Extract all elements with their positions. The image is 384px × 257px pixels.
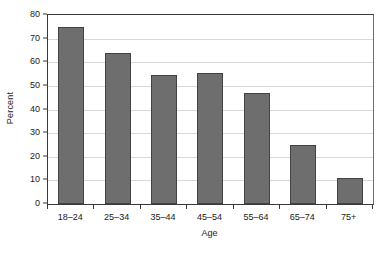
y-axis-title-text: Percent (5, 91, 15, 123)
y-axis-tick-label: 60 (30, 57, 40, 66)
y-axis-tick-labels: 01020304050607080 (18, 14, 40, 203)
bar (197, 73, 223, 204)
x-axis-tick-mark (93, 204, 94, 209)
bar (58, 27, 84, 204)
y-axis-tick-label: 40 (30, 104, 40, 113)
bar (244, 93, 270, 204)
x-axis-tick-marks (47, 204, 374, 209)
x-axis-tick-mark (326, 204, 327, 209)
bar-slot (234, 15, 280, 204)
bar-slot (187, 15, 233, 204)
bar-slot (48, 15, 94, 204)
x-axis-tick-labels: 18–2425–3435–4445–5455–6465–7475+ (47, 210, 372, 224)
y-axis-tick-label: 0 (35, 199, 40, 208)
bar (290, 145, 316, 204)
bar-slot (327, 15, 373, 204)
y-axis-tick-label: 10 (30, 175, 40, 184)
bar (151, 75, 177, 204)
bar (337, 178, 363, 204)
bars-layer (48, 15, 373, 204)
x-axis-tick-label: 65–74 (279, 210, 325, 224)
x-axis-tick-mark (372, 204, 373, 209)
y-axis-title: Percent (0, 0, 20, 215)
y-axis-tick-label: 50 (30, 80, 40, 89)
x-axis-tick-mark (186, 204, 187, 209)
x-axis-tick-label: 35–44 (140, 210, 186, 224)
x-axis-tick-mark (279, 204, 280, 209)
bar-chart-figure: Percent 01020304050607080 18–2425–3435–4… (0, 0, 384, 257)
x-axis-tick-label: 45–54 (186, 210, 232, 224)
y-axis-tick-label: 70 (30, 33, 40, 42)
x-axis-tick-mark (47, 204, 48, 209)
x-axis-tick-label: 55–64 (233, 210, 279, 224)
bar (105, 53, 131, 204)
bar-slot (94, 15, 140, 204)
x-axis-tick-label: 18–24 (47, 210, 93, 224)
y-axis-tick-label: 30 (30, 128, 40, 137)
y-axis-tick-label: 80 (30, 10, 40, 19)
plot-area (47, 14, 374, 205)
bar-slot (280, 15, 326, 204)
x-axis-tick-mark (140, 204, 141, 209)
x-axis-tick-mark (233, 204, 234, 209)
x-axis-title: Age (47, 228, 372, 238)
x-axis-tick-label: 75+ (326, 210, 372, 224)
y-axis-tick-label: 20 (30, 151, 40, 160)
bar-slot (141, 15, 187, 204)
x-axis-tick-label: 25–34 (93, 210, 139, 224)
